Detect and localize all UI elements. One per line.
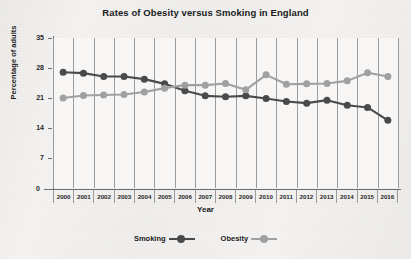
data-point — [263, 95, 270, 102]
chart-page: Rates of Obesity versus Smoking in Engla… — [0, 0, 411, 259]
y-axis-tick-mark — [48, 128, 52, 129]
data-point — [161, 85, 168, 92]
data-point — [80, 92, 87, 99]
x-axis-tick-label: 2007 — [196, 190, 216, 203]
x-axis-tick-label: 2011 — [277, 190, 297, 203]
data-point — [344, 77, 351, 84]
legend-label: Obesity — [221, 234, 249, 243]
y-axis-tick-label: 35 — [22, 34, 44, 41]
legend-item-smoking[interactable]: Smoking — [134, 234, 195, 243]
y-axis-tick-label: 28 — [22, 64, 44, 71]
page-title: Rates of Obesity versus Smoking in Engla… — [0, 7, 411, 18]
x-axis-tick-label: 2002 — [94, 190, 114, 203]
y-axis-origin-label: 0 — [36, 185, 40, 192]
x-axis-tick-label: 2001 — [74, 190, 94, 203]
data-point — [242, 86, 249, 93]
data-point — [60, 69, 67, 76]
y-axis-tick-label: 14 — [22, 124, 44, 131]
y-axis-tick-mark — [48, 68, 52, 69]
y-axis-tick-label: 21 — [22, 94, 44, 101]
y-axis-tick-mark — [48, 38, 52, 39]
data-point — [222, 80, 229, 87]
data-point — [121, 73, 128, 80]
series-layer — [53, 38, 398, 188]
x-axis-tick-label: 2009 — [236, 190, 256, 203]
data-point — [141, 76, 148, 83]
plot-area — [53, 38, 398, 188]
legend-label: Smoking — [134, 234, 166, 243]
data-point — [283, 98, 290, 105]
data-point — [222, 93, 229, 100]
data-point — [344, 102, 351, 109]
gridline — [398, 38, 399, 188]
data-point — [384, 73, 391, 80]
legend-item-obesity[interactable]: Obesity — [221, 234, 278, 243]
x-axis-tick-label: 2010 — [256, 190, 276, 203]
x-axis-tick-label: 2006 — [175, 190, 195, 203]
x-axis-tick-label: 2003 — [115, 190, 135, 203]
data-point — [181, 82, 188, 89]
y-axis-title: Percentage of adults — [9, 3, 18, 123]
x-axis-tick-label: 2013 — [317, 190, 337, 203]
legend-swatch — [251, 234, 277, 243]
data-point — [323, 80, 330, 87]
data-point — [303, 80, 310, 87]
x-axis-tick-label: 2008 — [216, 190, 236, 203]
x-axis-tick-label: 2005 — [155, 190, 175, 203]
x-axis-tick-label: 2012 — [297, 190, 317, 203]
x-axis-labels: 2000200120022003200420052006200720082009… — [53, 190, 398, 203]
data-point — [121, 91, 128, 98]
data-point — [242, 92, 249, 99]
x-axis-title: Year — [0, 205, 411, 214]
data-point — [263, 71, 270, 78]
data-point — [303, 100, 310, 107]
series-smoking — [60, 69, 392, 124]
data-point — [80, 70, 87, 77]
x-axis-tick-label: 2016 — [378, 190, 398, 203]
legend-marker-icon — [177, 235, 185, 243]
x-axis-tick-label: 2000 — [53, 190, 74, 203]
x-axis-tick-label: 2014 — [337, 190, 357, 203]
x-axis-tick-label: 2004 — [135, 190, 155, 203]
x-axis-tick-label: 2015 — [358, 190, 378, 203]
data-point — [323, 97, 330, 104]
data-point — [283, 81, 290, 88]
legend-swatch — [169, 234, 195, 243]
data-point — [202, 82, 209, 89]
chart-legend: SmokingObesity — [0, 234, 411, 243]
data-point — [384, 117, 391, 124]
data-point — [202, 92, 209, 99]
data-point — [60, 95, 67, 102]
data-point — [100, 73, 107, 80]
data-point — [100, 92, 107, 99]
data-point — [364, 69, 371, 76]
y-axis-tick-mark — [48, 98, 52, 99]
data-point — [141, 89, 148, 96]
y-axis-tick-label: 7 — [22, 154, 44, 161]
y-axis-tick-mark — [48, 158, 52, 159]
data-point — [364, 104, 371, 111]
legend-marker-icon — [260, 235, 268, 243]
